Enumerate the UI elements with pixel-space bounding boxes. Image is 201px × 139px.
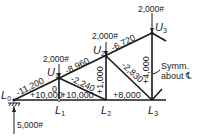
node-label-L0: L0 <box>1 89 11 102</box>
reaction-arrow-icon <box>12 106 16 134</box>
node-label-U2: U2 <box>93 44 105 57</box>
force-label-L2L3: +8,000 <box>113 90 141 100</box>
node-label-U1: U1 <box>47 66 59 79</box>
node-label-L3: L3 <box>148 104 158 117</box>
member-top-chord-continuation <box>152 33 166 41</box>
symmetry-leader-line <box>153 70 160 74</box>
load-arrow-U3-icon <box>150 13 154 33</box>
symmetry-note-line1: Symm. <box>161 61 189 71</box>
load-label-U1: 2,000# <box>43 54 69 64</box>
force-label-L0L1: +10,000 <box>30 90 63 100</box>
truss-diagram: 2,000# 2,000# 2,000# 5,000# L0 L1 L2 L3 … <box>0 0 201 139</box>
node-label-L2: L2 <box>101 104 111 117</box>
pin-support-icon <box>8 103 20 106</box>
node-label-L1: L1 <box>55 104 65 117</box>
load-label-U3: 2,000# <box>138 4 164 14</box>
symmetry-note-line2: about ℄ <box>161 71 192 81</box>
force-label-U2L2: +1,000 <box>95 66 105 94</box>
node-label-U3: U3 <box>155 21 167 34</box>
force-label-U3L3: +4,000 <box>141 56 151 84</box>
load-label-U2: 2,000# <box>92 31 118 41</box>
reaction-label-L0: 5,000# <box>17 120 43 130</box>
member-diagonal-continuation <box>152 89 162 100</box>
force-label-U1L1: 0 <box>52 84 57 94</box>
node-L0-dot <box>12 98 15 101</box>
